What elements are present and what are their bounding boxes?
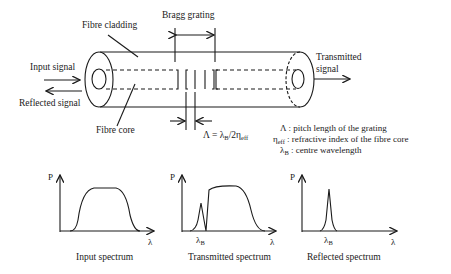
legend-refractive-index: ηeff : refractive index of the fibre cor… xyxy=(273,135,409,146)
reflected-spectrum-y-label: P xyxy=(290,173,295,182)
transmitted-signal-label-2: signal xyxy=(316,65,339,75)
transmitted-signal-label-1: Transmitted xyxy=(316,53,362,63)
transmitted-spectrum-y-label: P xyxy=(170,173,175,182)
legend-centre-wavelength: λB : centre wavelength xyxy=(280,146,361,157)
transmitted-spectrum-x-label: λ xyxy=(270,238,274,247)
fibre-cylinder xyxy=(85,52,314,107)
fibre-cladding-label: Fibre cladding xyxy=(82,21,137,31)
input-spectrum-x-label: λ xyxy=(148,238,152,247)
input-spectrum-title: Input spectrum xyxy=(76,253,133,263)
input-spectrum-plot xyxy=(60,175,154,232)
pitch-formula: Λ = λB/2ηeff xyxy=(203,131,248,142)
reflected-signal-label: Reflected signal xyxy=(19,99,80,109)
transmitted-spectrum-title: Transmitted spectrum xyxy=(188,253,271,263)
grating-lines xyxy=(176,70,218,89)
bragg-grating-label: Bragg grating xyxy=(162,11,215,21)
input-spectrum-y-label: P xyxy=(48,173,53,182)
fibre-core-label: Fibre core xyxy=(96,126,135,136)
legend-pitch: Λ : pitch length of the grating xyxy=(280,124,387,133)
input-signal-label: Input signal xyxy=(30,63,75,73)
reflected-spectrum-x-label: λ xyxy=(391,238,395,247)
reflected-spectrum-plot xyxy=(302,175,397,232)
transmitted-spectrum-plot xyxy=(182,175,276,232)
reflected-spectrum-title: Reflected spectrum xyxy=(307,253,381,263)
reflected-spectrum-marker: λB xyxy=(324,236,333,247)
transmitted-spectrum-marker: λB xyxy=(196,236,205,247)
